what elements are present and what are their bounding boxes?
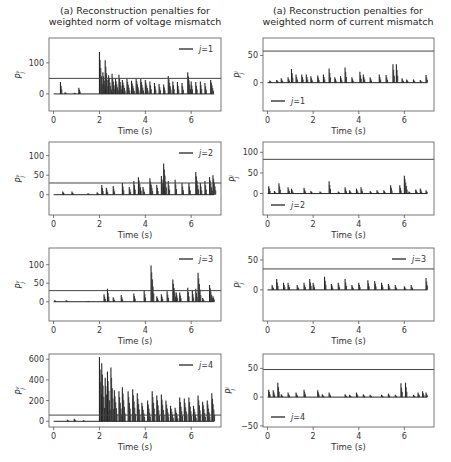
y-axis-label: Pvj: [14, 174, 26, 183]
y-tick-label: 0: [253, 286, 258, 295]
x-tick-label: 0: [265, 326, 270, 335]
x-tick-label: 0: [265, 116, 270, 125]
panel-right-4: 0246−50050Time (s)Pijj=4: [224, 354, 434, 452]
panel-left-2: 0246050100Time (s)Pvjj=2: [14, 142, 221, 240]
y-axis-label: Pvj: [14, 386, 26, 395]
panel-right-1: 0246050Time (s)Pijj=1: [233, 38, 434, 136]
x-tick-label: 4: [143, 116, 148, 125]
legend-label: j=4: [290, 413, 305, 422]
legend-label: j=3: [198, 255, 213, 264]
x-tick-label: 6: [402, 432, 407, 441]
x-tick-label: 2: [311, 220, 316, 229]
panel-left-4: 02460200400600Time (s)Pvjj=4: [14, 354, 221, 452]
y-tick-label: 0: [39, 191, 44, 200]
x-tick-label: 0: [265, 220, 270, 229]
x-tick-label: 0: [51, 220, 56, 229]
x-tick-label: 2: [97, 326, 102, 335]
x-tick-label: 6: [402, 220, 407, 229]
x-tick-label: 2: [97, 432, 102, 441]
x-tick-label: 0: [51, 432, 56, 441]
axes-frame: [49, 38, 221, 111]
y-tick-label: 50: [248, 364, 258, 373]
y-tick-label: 0: [39, 298, 44, 307]
y-tick-label: 400: [29, 376, 44, 385]
x-tick-label: 4: [356, 326, 361, 335]
axes-frame: [49, 248, 221, 321]
y-tick-label: 50: [248, 256, 258, 265]
x-tick-label: 2: [311, 326, 316, 335]
chart-canvas: 02460100Time (s)Pvjj=10246050Time (s)Pij…: [0, 0, 451, 462]
y-axis-label: Pvj: [14, 70, 26, 79]
y-tick-label: 100: [29, 261, 44, 270]
y-tick-label: 100: [29, 152, 44, 161]
axes-frame: [263, 142, 434, 215]
x-tick-label: 4: [143, 432, 148, 441]
legend-label: j=1: [198, 45, 213, 54]
x-tick-label: 4: [356, 432, 361, 441]
x-tick-label: 6: [402, 326, 407, 335]
x-tick-label: 4: [143, 220, 148, 229]
x-tick-label: 6: [189, 220, 194, 229]
panel-right-3: 0246050Time (s)Pijj=3: [233, 248, 434, 346]
x-tick-label: 2: [97, 116, 102, 125]
y-tick-label: 50: [34, 171, 44, 180]
y-axis-label: Pij: [233, 71, 245, 78]
y-tick-label: 50: [248, 169, 258, 178]
x-tick-label: 0: [265, 432, 270, 441]
axes-frame: [263, 248, 434, 321]
axes-frame: [263, 354, 434, 427]
x-tick-label: 6: [189, 116, 194, 125]
y-tick-label: 50: [34, 279, 44, 288]
x-tick-label: 4: [143, 326, 148, 335]
y-tick-label: 200: [29, 397, 44, 406]
y-tick-label: 0: [253, 79, 258, 88]
x-axis-label: Time (s): [330, 442, 366, 452]
y-tick-label: 100: [243, 148, 258, 157]
x-tick-label: 6: [189, 432, 194, 441]
x-tick-label: 0: [51, 116, 56, 125]
y-tick-label: −50: [241, 422, 258, 431]
x-axis-label: Time (s): [117, 442, 153, 452]
legend-label: j=4: [198, 361, 213, 370]
y-axis-label: Pvj: [14, 280, 26, 289]
x-axis-label: Time (s): [330, 336, 366, 346]
panel-left-1: 02460100Time (s)Pvjj=1: [14, 38, 221, 136]
y-tick-label: 0: [253, 393, 258, 402]
y-tick-label: 50: [248, 51, 258, 60]
x-axis-label: Time (s): [330, 126, 366, 136]
legend-label: j=2: [290, 201, 305, 210]
x-axis-label: Time (s): [330, 230, 366, 240]
x-tick-label: 6: [189, 326, 194, 335]
legend-label: j=3: [411, 255, 426, 264]
panel-left-3: 0246050100Time (s)Pvjj=3: [14, 248, 221, 346]
y-axis-label: Pij: [233, 281, 245, 288]
x-axis-label: Time (s): [117, 126, 153, 136]
y-tick-label: 0: [39, 417, 44, 426]
y-axis-label: Pij: [228, 175, 240, 182]
x-tick-label: 6: [402, 116, 407, 125]
y-tick-label: 600: [29, 355, 44, 364]
y-tick-label: 100: [29, 59, 44, 68]
panel-right-2: 0246050100Time (s)Pijj=2: [228, 142, 434, 240]
y-tick-label: 0: [253, 190, 258, 199]
legend-label: j=1: [290, 97, 305, 106]
x-tick-label: 2: [311, 432, 316, 441]
axes-frame: [263, 38, 434, 111]
x-tick-label: 0: [51, 326, 56, 335]
x-axis-label: Time (s): [117, 230, 153, 240]
x-axis-label: Time (s): [117, 336, 153, 346]
axes-frame: [49, 142, 221, 215]
x-tick-label: 4: [356, 220, 361, 229]
y-tick-label: 0: [39, 90, 44, 99]
legend-label: j=2: [198, 149, 213, 158]
y-axis-label: Pij: [224, 387, 236, 394]
x-tick-label: 2: [311, 116, 316, 125]
x-tick-label: 4: [356, 116, 361, 125]
x-tick-label: 2: [97, 220, 102, 229]
